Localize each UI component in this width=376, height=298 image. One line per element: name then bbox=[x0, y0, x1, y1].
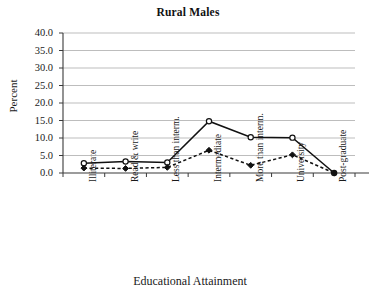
marker-filled-diamond bbox=[164, 165, 170, 171]
marker-open-circle bbox=[248, 135, 253, 140]
plot-area bbox=[0, 0, 376, 298]
marker-filled-diamond bbox=[248, 162, 254, 168]
chart-container: Rural Males Percent Educational Attainme… bbox=[0, 0, 376, 298]
marker-open-circle bbox=[123, 159, 128, 164]
marker-filled-diamond bbox=[206, 147, 212, 153]
x-axis-ticks bbox=[63, 173, 355, 177]
data-markers bbox=[81, 119, 337, 176]
marker-filled-diamond bbox=[81, 165, 87, 171]
marker-filled-diamond bbox=[123, 166, 129, 172]
gridlines bbox=[59, 33, 355, 173]
marker-open-circle bbox=[290, 135, 295, 140]
marker-open-circle bbox=[206, 119, 211, 124]
marker-filled-diamond bbox=[290, 152, 296, 158]
